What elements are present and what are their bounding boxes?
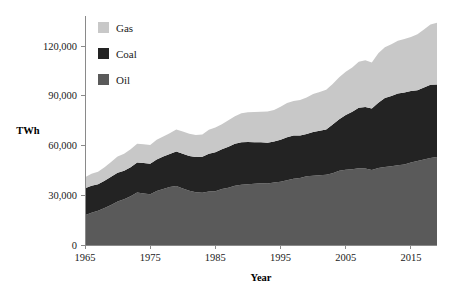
x-tick-label: 2005	[335, 252, 356, 263]
x-tick-label: 1975	[140, 252, 161, 263]
x-tick-label: 1995	[270, 252, 291, 263]
legend-swatch-coal	[98, 48, 109, 59]
x-tick-label: 2015	[400, 252, 421, 263]
x-tick-label: 1985	[205, 252, 226, 263]
stacked-area-chart: 030,00060,00090,000120,000 1965197519851…	[0, 0, 452, 294]
y-tick-label: 30,000	[48, 190, 77, 201]
legend-label-oil: Oil	[116, 74, 130, 86]
y-axis-title: TWh	[16, 125, 40, 136]
y-tick-label: 0	[72, 240, 77, 251]
y-tick-label: 60,000	[48, 140, 77, 151]
legend-swatch-oil	[98, 74, 109, 85]
y-tick-label: 120,000	[43, 41, 77, 52]
x-axis-title: Year	[251, 272, 272, 283]
legend-swatch-gas	[98, 22, 109, 33]
x-tick-label: 1965	[75, 252, 96, 263]
chart-canvas: 030,00060,00090,000120,000 1965197519851…	[0, 0, 452, 294]
legend-label-coal: Coal	[116, 48, 137, 60]
y-tick-label: 90,000	[48, 90, 77, 101]
legend-label-gas: Gas	[116, 22, 133, 34]
